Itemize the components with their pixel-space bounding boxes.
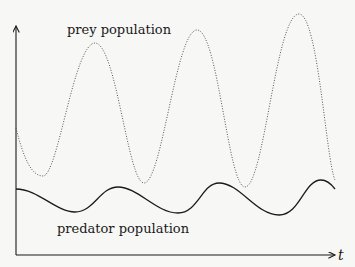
prey-label: prey population <box>67 22 172 37</box>
prey-curve <box>16 14 335 187</box>
predator-label: predator population <box>57 221 190 236</box>
predator-curve <box>16 180 335 215</box>
lotka-volterra-diagram: t prey population predator population <box>0 0 355 267</box>
x-axis-label: t <box>338 247 344 263</box>
